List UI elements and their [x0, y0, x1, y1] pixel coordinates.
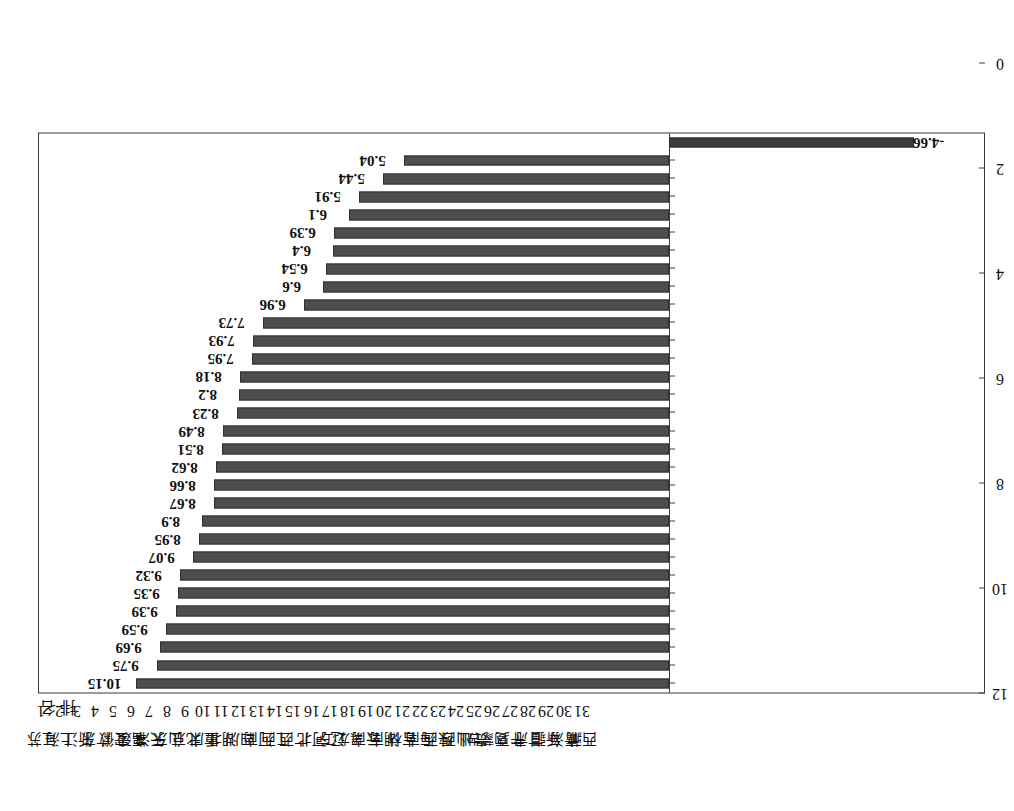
- bar[interactable]: [359, 191, 669, 202]
- bar[interactable]: [216, 461, 669, 472]
- bar-slot: 9.75: [39, 656, 984, 674]
- bar[interactable]: [199, 533, 669, 544]
- bar[interactable]: [223, 425, 669, 436]
- category-tick: [669, 412, 675, 413]
- bar-slot: 6.6: [39, 277, 984, 295]
- category-tick: [669, 646, 675, 647]
- category-tick: [669, 502, 675, 503]
- bar[interactable]: [404, 155, 669, 166]
- bar-value-label: 7.73: [219, 314, 245, 331]
- bar-slot: 9.35: [39, 584, 984, 602]
- bar-slot: 5.91: [39, 187, 984, 205]
- bar-value-label: 8.51: [178, 440, 204, 457]
- bar[interactable]: [214, 479, 669, 490]
- bar-slot: 6.4: [39, 241, 984, 259]
- bar-slot: 8.67: [39, 494, 984, 512]
- bar[interactable]: [240, 371, 669, 382]
- bar[interactable]: [166, 623, 669, 634]
- bar-value-label: 8.49: [179, 422, 205, 439]
- bar[interactable]: [178, 587, 669, 598]
- bar-value-label: 9.69: [116, 638, 142, 655]
- value-tick: [979, 587, 985, 588]
- value-tick-label: 10: [992, 579, 1008, 597]
- bar-slot: 5.04: [39, 151, 984, 169]
- bar-value-label: 9.35: [134, 584, 160, 601]
- bar[interactable]: [252, 353, 669, 364]
- bar[interactable]: [383, 173, 669, 184]
- value-tick-label: 8: [996, 474, 1004, 492]
- bar-slot: 9.59: [39, 620, 984, 638]
- bar[interactable]: [180, 569, 669, 580]
- bar[interactable]: [157, 660, 669, 671]
- bar[interactable]: [239, 389, 670, 400]
- value-tick-label: 4: [996, 264, 1004, 282]
- category-tick: [669, 448, 675, 449]
- value-tick: [979, 62, 985, 63]
- bar[interactable]: [237, 407, 669, 418]
- bar-slot: 8.49: [39, 422, 984, 440]
- category-tick: [669, 628, 675, 629]
- category-tick: [669, 303, 675, 304]
- category-tick: [669, 393, 675, 394]
- bar[interactable]: [160, 642, 669, 653]
- bar[interactable]: [176, 605, 669, 616]
- bar-slot: -4.66: [39, 133, 984, 151]
- bar[interactable]: [334, 227, 669, 238]
- bar[interactable]: [669, 137, 914, 148]
- category-tick: [669, 466, 675, 467]
- bar[interactable]: [202, 515, 669, 526]
- bar-slot: 6.96: [39, 295, 984, 313]
- bar[interactable]: [253, 335, 669, 346]
- bar[interactable]: [214, 497, 669, 508]
- bar-value-label: 10.15: [88, 674, 122, 691]
- bar-value-label: 6.4: [292, 242, 311, 259]
- plot-frame: 10.159.759.699.599.399.359.329.078.958.9…: [38, 132, 985, 693]
- bar-value-label: 9.59: [121, 620, 147, 637]
- category-tick: [669, 339, 675, 340]
- bar[interactable]: [349, 209, 669, 220]
- category-tick: [669, 249, 675, 250]
- bar-value-label: 9.39: [131, 602, 157, 619]
- bar-slot: 8.66: [39, 476, 984, 494]
- category-name-label: 西藏: [567, 730, 597, 751]
- bar-slot: 8.9: [39, 512, 984, 530]
- value-tick: [979, 377, 985, 378]
- value-tick-label: 12: [992, 684, 1008, 702]
- category-tick: [669, 538, 675, 539]
- bar-slot: 8.95: [39, 530, 984, 548]
- category-tick: [669, 267, 675, 268]
- bar-value-label: 8.95: [155, 530, 181, 547]
- bar-value-label: 6.96: [259, 296, 285, 313]
- bar-value-label: 7.93: [208, 332, 234, 349]
- category-tick: [669, 231, 675, 232]
- category-tick: [669, 682, 675, 683]
- value-tick-label: 2: [996, 159, 1004, 177]
- bar[interactable]: [333, 245, 669, 256]
- category-label-group: 31西藏: [573, 693, 591, 811]
- category-axis: 排 名 1江苏2上海3浙江4广东5安徽6福建7天津8山东9北京10重庆11湖北1…: [38, 693, 985, 811]
- category-tick: [669, 141, 675, 142]
- bar-value-label: 5.91: [314, 188, 340, 205]
- bar-slot: 6.54: [39, 259, 984, 277]
- bar[interactable]: [193, 551, 669, 562]
- bar-slot: 10.15: [39, 674, 984, 692]
- category-tick: [669, 574, 675, 575]
- bar[interactable]: [222, 443, 669, 454]
- bar[interactable]: [304, 299, 669, 310]
- bar-slot: 7.95: [39, 349, 984, 367]
- bar-value-label: 7.95: [207, 350, 233, 367]
- category-tick: [669, 610, 675, 611]
- bar-slot: 6.1: [39, 205, 984, 223]
- category-tick: [669, 213, 675, 214]
- category-tick: [669, 520, 675, 521]
- bar[interactable]: [326, 263, 669, 274]
- category-tick: [669, 285, 675, 286]
- bar-value-label: -4.66: [913, 134, 944, 151]
- bar[interactable]: [263, 317, 669, 328]
- bar-slot: 9.39: [39, 602, 984, 620]
- bar[interactable]: [136, 678, 669, 689]
- category-tick: [669, 430, 675, 431]
- category-tick: [669, 664, 675, 665]
- category-rank-label: 31: [567, 701, 597, 719]
- bar[interactable]: [323, 281, 670, 292]
